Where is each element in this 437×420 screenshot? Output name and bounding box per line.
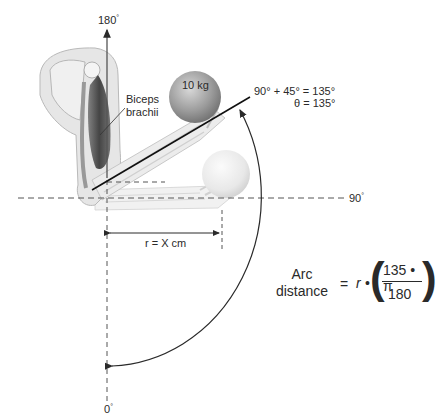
arc-distance-formula: Arc distance = r • ( 135 • π 180 ) (270, 258, 420, 318)
formula-lhs: Arc distance (270, 266, 334, 300)
formula-fraction-bar (382, 281, 422, 282)
label-90: 90° (349, 193, 364, 204)
label-180: 180° (98, 15, 119, 26)
label-angle-sum: 90° + 45° = 135° (254, 86, 335, 97)
lowered-ball (202, 150, 250, 198)
label-weight: 10 kg (182, 80, 209, 91)
formula-equals: = (340, 276, 348, 292)
formula-r: r (356, 275, 361, 291)
formula-denominator: 180 (388, 286, 411, 302)
formula-close-paren: ) (422, 256, 437, 300)
label-theta: θ = 135° (294, 98, 335, 109)
label-0: 0° (104, 404, 113, 415)
label-biceps: Biceps brachii (126, 93, 159, 119)
label-radius: r = X cm (145, 238, 186, 249)
